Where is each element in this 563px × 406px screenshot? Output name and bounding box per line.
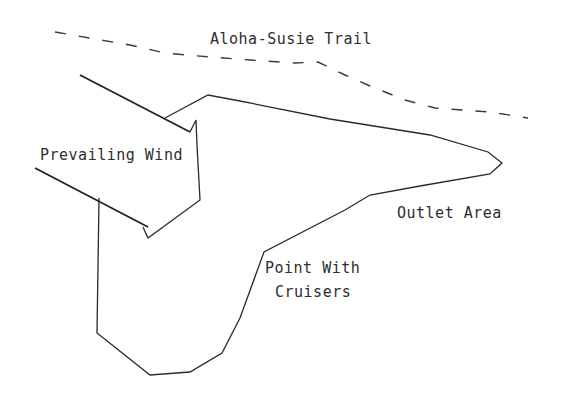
lake-shoreline bbox=[97, 95, 502, 375]
trail-label: Aloha-Susie Trail bbox=[210, 30, 372, 48]
point-label-line1: Point With bbox=[265, 259, 360, 277]
outlet-area-label: Outlet Area bbox=[397, 204, 502, 222]
wind-label: Prevailing Wind bbox=[40, 146, 183, 164]
point-label-line2: Cruisers bbox=[275, 283, 351, 301]
lake-map-diagram: Aloha-Susie Trail Prevailing Wind Outlet… bbox=[0, 0, 563, 406]
